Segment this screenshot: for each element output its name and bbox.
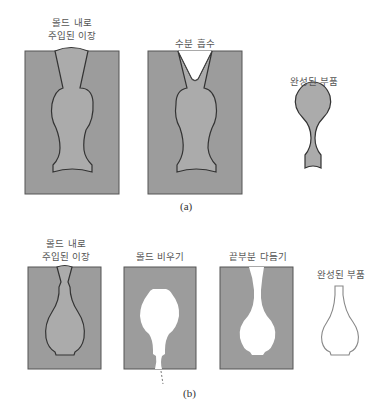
label-drain-mold: 몰드 비우기 (129, 250, 191, 263)
finished-part-b (322, 286, 359, 355)
caption-b: (b) (183, 387, 196, 399)
finished-part-a (295, 82, 330, 168)
label-finished-part-b: 완성된 부품 (310, 268, 372, 281)
mold-b3 (220, 267, 293, 369)
label-trim-top: 끝부분 다듬기 (222, 250, 294, 263)
mold-b1 (28, 266, 101, 370)
label-finished-part-a: 완성된 부품 (283, 75, 345, 88)
label-poured-slip-a: 몰드 내로 주입된 이장 (36, 16, 108, 42)
mold-a1 (25, 48, 119, 195)
label-water-absorption: 수분 흡수 (166, 37, 224, 50)
mold-a2 (148, 51, 242, 194)
caption-a: (a) (180, 200, 192, 212)
mold-b2 (124, 267, 196, 384)
label-poured-slip-b: 몰드 내로 주입된 이장 (30, 237, 102, 263)
